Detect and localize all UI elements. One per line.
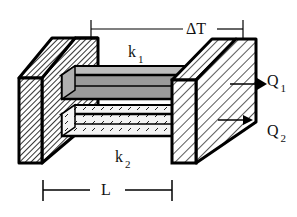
diagram-canvas: ΔT k1 k2 Q1 Q2 L	[0, 0, 297, 217]
delta-t-label: ΔT	[186, 21, 206, 37]
q2-subscript: 2	[281, 132, 287, 144]
k2-label: k2	[115, 149, 129, 166]
k2-base: k	[115, 148, 123, 165]
q1-base: Q	[267, 72, 279, 89]
q1-subscript: 1	[281, 82, 287, 94]
q2-base: Q	[267, 122, 279, 139]
q2-label: Q2	[267, 123, 284, 140]
k1-label: k1	[128, 44, 142, 61]
k1-base: k	[128, 43, 136, 60]
right-reservoir-block	[172, 39, 256, 163]
left-reservoir-block	[19, 38, 98, 163]
k1-subscript: 1	[138, 53, 144, 65]
length-label: L	[101, 182, 111, 198]
q1-label: Q1	[267, 73, 284, 90]
k2-subscript: 2	[125, 158, 131, 170]
parallel-conduction-figure	[0, 0, 297, 217]
